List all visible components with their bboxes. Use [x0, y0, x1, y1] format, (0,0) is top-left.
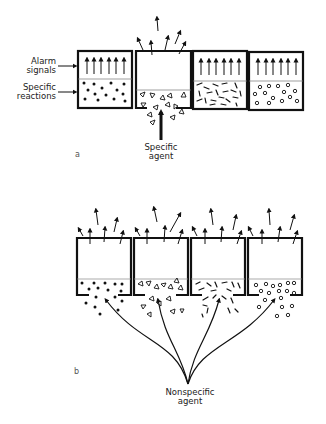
open-circle-particles-b	[254, 281, 295, 317]
open-triangle-particles-b	[138, 278, 184, 317]
panel-a-letter: a	[75, 150, 80, 159]
cell-a3	[193, 51, 247, 109]
short-dash-particles-b	[196, 282, 240, 317]
panel-a	[58, 18, 303, 140]
open-circle-particles	[253, 83, 298, 104]
escaping-arrows	[138, 18, 185, 55]
cell-b3	[191, 238, 245, 295]
specific-agent-line2: agent	[144, 152, 177, 161]
specific-label-line2: reactions	[10, 92, 56, 101]
short-dash-particles	[197, 83, 241, 106]
panel-b-letter: b	[74, 367, 79, 376]
cell-b1	[77, 238, 131, 295]
alarm-arrows	[87, 59, 124, 74]
alarm-signals-label: Alarm signals	[20, 57, 56, 75]
nonspecific-agent-line2: agent	[165, 397, 214, 406]
cell-a1	[78, 51, 132, 108]
filled-dot-particles-b	[81, 282, 124, 316]
cell-a4	[249, 52, 303, 110]
filled-dot-particles	[83, 82, 127, 103]
nonspecific-agent-arrows	[106, 300, 274, 384]
cell-a2	[136, 18, 191, 125]
specific-agent-label: Specific agent	[144, 143, 177, 161]
nonspecific-agent-label: Nonspecific agent	[165, 388, 214, 406]
panel-b	[77, 208, 302, 384]
alarm-label-line2: signals	[20, 66, 56, 75]
specific-reactions-label: Specific reactions	[10, 83, 56, 101]
